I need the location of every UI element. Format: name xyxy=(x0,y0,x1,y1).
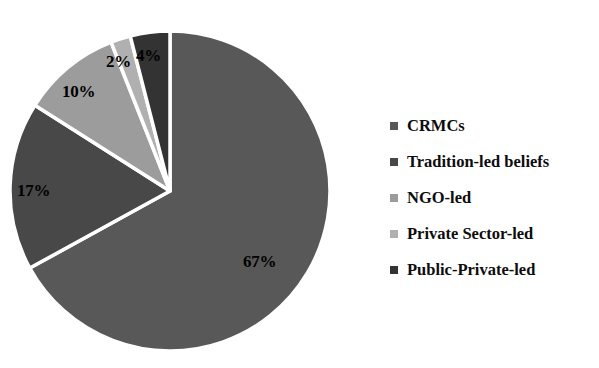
legend-item-label: CRMCs xyxy=(407,118,465,135)
legend-item-label: Public-Private-led xyxy=(407,262,535,279)
legend-item-public-private-led[interactable]: Public-Private-led xyxy=(390,252,599,288)
legend-item-private-sector-led[interactable]: Private Sector-led xyxy=(390,216,599,252)
pie-plot-area: 67% 17% 10% 2% 4% xyxy=(0,0,380,368)
legend-item-label: NGO-led xyxy=(407,190,471,207)
legend-swatch-icon xyxy=(390,158,398,166)
pie-chart: 67% 17% 10% 2% 4% CRMCs Tradition-led be… xyxy=(0,0,599,368)
slice-label-private-sector: 2% xyxy=(106,52,131,72)
legend-swatch-icon xyxy=(390,122,398,130)
legend-item-ngo-led[interactable]: NGO-led xyxy=(390,180,599,216)
legend-item-label: Tradition-led beliefs xyxy=(407,154,549,171)
chart-legend: CRMCs Tradition-led beliefs NGO-led Priv… xyxy=(390,108,599,288)
legend-swatch-icon xyxy=(390,194,398,202)
slice-label-public-private: 4% xyxy=(136,46,161,66)
legend-swatch-icon xyxy=(390,266,398,274)
pie-svg xyxy=(0,0,380,368)
legend-item-crmcs[interactable]: CRMCs xyxy=(390,108,599,144)
legend-item-tradition-led-beliefs[interactable]: Tradition-led beliefs xyxy=(390,144,599,180)
slice-label-ngo: 10% xyxy=(62,82,95,102)
slice-label-tradition: 17% xyxy=(17,181,50,201)
pie-slice-group xyxy=(10,31,330,351)
slice-label-crmcs: 67% xyxy=(243,252,276,272)
legend-swatch-icon xyxy=(390,230,398,238)
legend-item-label: Private Sector-led xyxy=(407,226,533,243)
